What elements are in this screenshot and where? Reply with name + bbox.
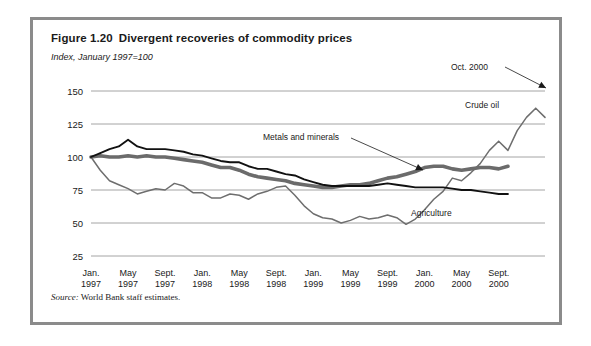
y-tick-150: 150 <box>57 86 83 97</box>
y-tick-100: 100 <box>57 152 83 163</box>
source-note: Source: World Bank staff estimates. <box>51 292 180 302</box>
annotation-leaders <box>351 67 546 170</box>
y-tick-125: 125 <box>57 119 83 130</box>
annotation-agriculture: Agriculture <box>411 208 452 218</box>
y-tick-50: 50 <box>57 218 83 229</box>
gridlines <box>91 91 545 256</box>
annotation-metals-and-minerals: Metals and minerals <box>263 132 339 142</box>
data-series-layer <box>91 108 545 224</box>
y-tick-75: 75 <box>57 185 83 196</box>
source-label: Source: <box>51 292 79 302</box>
source-text: World Bank staff estimates. <box>79 292 181 302</box>
annotation-oct-2000: Oct. 2000 <box>451 62 488 72</box>
figure-frame: Figure 1.20Divergent recoveries of commo… <box>30 17 562 325</box>
x-tick-Sept-2000: Sept.2000 <box>476 268 522 290</box>
y-tick-25: 25 <box>57 251 83 262</box>
annotation-crude-oil: Crude oil <box>465 100 499 110</box>
